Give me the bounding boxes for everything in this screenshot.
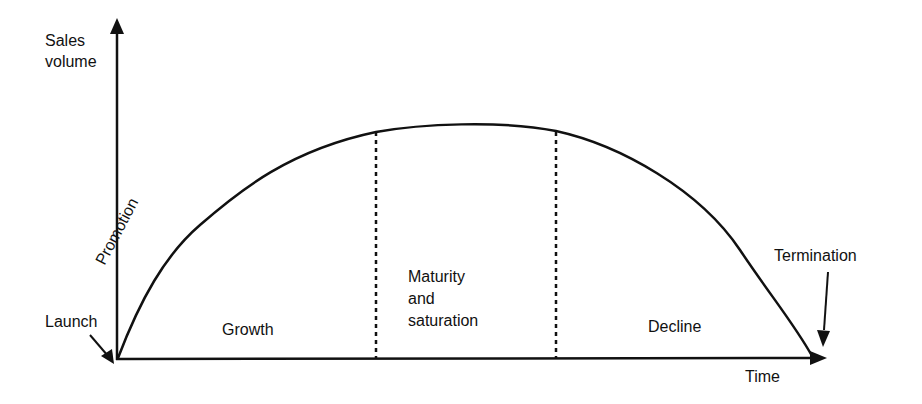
termination-arrow-icon bbox=[817, 272, 830, 347]
stage-label-maturity-line3: saturation bbox=[408, 312, 478, 330]
stage-label-maturity-line2: and bbox=[408, 290, 435, 308]
stage-label-maturity-line1: Maturity bbox=[408, 268, 465, 286]
launch-arrow-icon bbox=[90, 335, 114, 364]
x-axis-arrow-icon bbox=[810, 351, 827, 365]
y-axis-label-line2: volume bbox=[45, 53, 97, 71]
launch-label: Launch bbox=[45, 313, 98, 331]
stage-label-decline: Decline bbox=[648, 318, 701, 336]
termination-label: Termination bbox=[774, 247, 857, 265]
x-axis bbox=[116, 351, 827, 365]
y-axis bbox=[110, 18, 124, 360]
y-axis-arrow-icon bbox=[110, 18, 124, 34]
stage-label-growth: Growth bbox=[222, 321, 274, 339]
y-axis-label-line1: Sales bbox=[45, 32, 85, 50]
x-axis-label: Time bbox=[745, 368, 780, 386]
